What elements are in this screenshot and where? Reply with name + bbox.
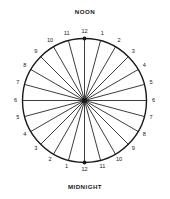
hour-label-22: 10 <box>47 38 53 44</box>
hour-marker-dot <box>83 37 87 41</box>
spoke-line <box>85 101 145 117</box>
hour-label-21: 9 <box>34 49 37 55</box>
hour-label-16: 4 <box>23 132 26 138</box>
spoke-line <box>85 84 145 100</box>
hour-label-14: 2 <box>48 157 51 163</box>
spoke-line <box>68 101 84 161</box>
clock-wheel-figure: NOON MIDNIGHT 12123456789101112123456789… <box>0 0 170 199</box>
hour-label-4: 4 <box>143 63 146 69</box>
hour-label-8: 8 <box>143 132 146 138</box>
hour-label-12: 12 <box>81 167 87 173</box>
hour-label-20: 8 <box>23 63 26 69</box>
spoke-line <box>68 41 84 101</box>
hour-label-7: 7 <box>150 116 153 122</box>
center-hub-dot <box>82 98 87 103</box>
spoke-line <box>25 101 85 117</box>
midnight-label: MIDNIGHT <box>0 184 170 190</box>
spoke-line <box>85 101 101 161</box>
hour-marker-dot <box>83 161 87 165</box>
hour-label-17: 5 <box>16 116 19 122</box>
hour-label-3: 3 <box>132 49 135 55</box>
hour-label-23: 11 <box>64 31 70 37</box>
spoke-line <box>25 84 85 100</box>
hour-label-9: 9 <box>132 146 135 152</box>
hour-label-19: 7 <box>16 80 19 86</box>
hour-label-0: 12 <box>81 29 87 35</box>
hour-label-10: 10 <box>116 157 122 163</box>
hour-label-1: 1 <box>101 31 104 37</box>
noon-label: NOON <box>0 9 170 15</box>
hour-label-13: 1 <box>65 164 68 170</box>
hour-label-2: 2 <box>117 38 120 44</box>
hour-label-11: 11 <box>99 164 105 170</box>
hour-label-5: 5 <box>150 80 153 86</box>
hour-label-6: 6 <box>152 98 155 104</box>
spoke-line <box>85 41 101 101</box>
hour-label-18: 6 <box>14 98 17 104</box>
center-hub <box>82 98 87 103</box>
hour-label-15: 3 <box>34 146 37 152</box>
